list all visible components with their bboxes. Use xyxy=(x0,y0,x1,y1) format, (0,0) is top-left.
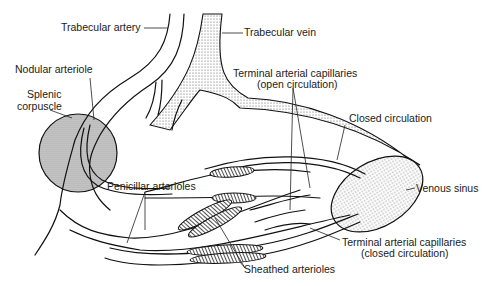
leader-penicillar xyxy=(127,192,145,243)
label-closed-circulation: Closed circulation xyxy=(349,112,432,124)
label-venous-sinus: Venous sinus xyxy=(416,182,478,194)
artery-twig xyxy=(158,80,162,115)
label-trabecular-artery: Trabecular artery xyxy=(61,21,141,33)
splenic-circulation-diagram: Trabecular artery Trabecular vein Nodula… xyxy=(0,0,490,286)
terminal-open-capillary xyxy=(255,210,305,222)
label-nodular-arteriole: Nodular arteriole xyxy=(15,63,93,75)
sheathed-arteriole-sheath xyxy=(210,165,255,179)
sheathed-arteriole-sheath xyxy=(212,193,256,203)
leader-terminal-closed xyxy=(310,228,340,240)
label-penicillar-arterioles: Penicillar arterioles xyxy=(107,180,196,192)
label-trabecular-vein: Trabecular vein xyxy=(244,26,316,38)
leader-terminal-open xyxy=(293,88,310,188)
leader-nodular-arteriole xyxy=(90,78,94,120)
label-sheathed-arterioles: Sheathed arterioles xyxy=(244,263,335,275)
label-splenic-corpuscle-2: corpuscle xyxy=(17,100,62,112)
splenic-corpuscle-shape xyxy=(39,114,117,192)
venous-sinus-shape xyxy=(318,140,437,247)
label-terminal-closed-2: (closed circulation) xyxy=(361,247,449,259)
label-splenic-corpuscle-1: Splenic xyxy=(27,88,61,100)
label-terminal-open-2: (open circulation) xyxy=(257,78,338,90)
penicillar-arteriole xyxy=(60,190,300,238)
artery-twig xyxy=(146,82,156,118)
leader-closed-circulation xyxy=(337,125,345,160)
